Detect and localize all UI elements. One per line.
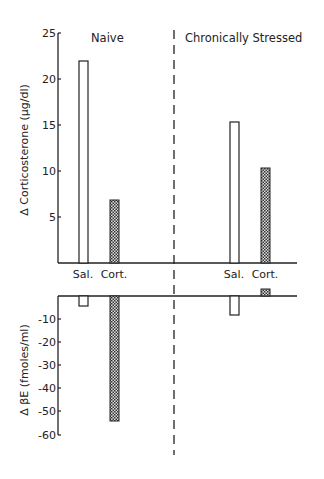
bar-naive-cort-bottom — [110, 296, 119, 421]
top-tick-10: 10 — [42, 165, 56, 178]
x-label-stressed-sal: Sal. — [224, 268, 244, 281]
bottom-tick-50: -50 — [38, 405, 56, 418]
group-label-naive: Naive — [91, 31, 124, 45]
bottom-tick-30: -30 — [38, 359, 56, 372]
x-label-stressed-cort: Cort. — [252, 268, 279, 281]
x-label-naive-sal: Sal. — [73, 268, 93, 281]
bar-stressed-cort-bottom — [261, 289, 270, 296]
top-tick-25: 25 — [42, 27, 56, 40]
top-tick-15: 15 — [42, 119, 56, 132]
bottom-tick-10: -10 — [38, 313, 56, 326]
bottom-tick-40: -40 — [38, 382, 56, 395]
top-tick-20: 20 — [42, 73, 56, 86]
bottom-tick-20: -20 — [38, 336, 56, 349]
bar-naive-sal-bottom — [79, 296, 88, 306]
bar-stressed-sal-bottom — [230, 296, 239, 315]
bottom-panel: -10 -20 -30 -40 -50 -60 Δ βE (fmoles/ml) — [18, 289, 297, 442]
bar-naive-sal-top — [79, 61, 88, 263]
top-panel: 25 20 15 10 5 Δ Corticosterone (μg/dl) S… — [18, 27, 302, 281]
top-y-label: Δ Corticosterone (μg/dl) — [18, 84, 31, 215]
bottom-tick-60: -60 — [38, 429, 56, 442]
group-label-stressed: Chronically Stressed — [185, 31, 302, 45]
bar-stressed-cort-top — [261, 168, 270, 263]
chart-figure: 25 20 15 10 5 Δ Corticosterone (μg/dl) S… — [0, 0, 324, 479]
bottom-y-label: Δ βE (fmoles/ml) — [18, 324, 31, 415]
bar-naive-cort-top — [110, 200, 119, 263]
bar-stressed-sal-top — [230, 122, 239, 263]
top-tick-5: 5 — [49, 211, 56, 224]
x-label-naive-cort: Cort. — [101, 268, 128, 281]
